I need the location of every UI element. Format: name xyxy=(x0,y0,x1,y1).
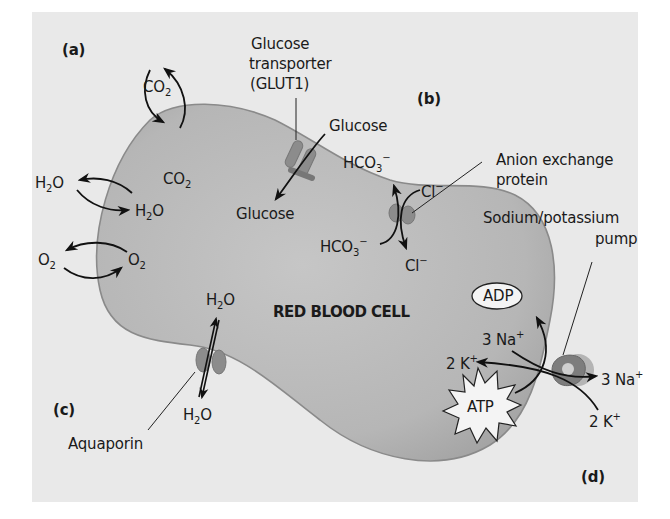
k-inside-label: 2 K+ xyxy=(446,354,478,372)
anion-protein-label-line2: protein xyxy=(496,173,548,188)
anion-protein-label-line1: Anion exchange xyxy=(496,153,613,168)
glucose-outside-label: Glucose xyxy=(329,119,387,134)
aquaporin-icon xyxy=(196,348,226,374)
pump-leader-line xyxy=(563,262,592,355)
glut-label-line2: transporter xyxy=(249,57,332,72)
atp-label: ATP xyxy=(467,400,494,415)
h2o-inside-label: H2O xyxy=(135,204,164,222)
cell-title: RED BLOOD CELL xyxy=(273,305,409,320)
cl-outside-label: Cl− xyxy=(421,182,443,200)
sodium-potassium-pump-icon xyxy=(552,354,594,386)
o2-inside-label: O2 xyxy=(128,253,146,271)
co2-outside-label: CO2 xyxy=(143,80,171,98)
glut-label-line1: Glucose xyxy=(251,37,309,52)
glut-label-line3: (GLUT1) xyxy=(250,77,309,92)
hco3-outside-label: HCO3− xyxy=(343,153,390,174)
pump-label-line1: Sodium/potassium xyxy=(483,211,619,226)
k-outside-label: 2 K+ xyxy=(589,412,621,430)
o2-outside-label: O2 xyxy=(38,253,56,271)
panel-label-a: (a) xyxy=(62,43,85,58)
co2-inside-label: CO2 xyxy=(163,172,191,190)
hco3-inside-label: HCO3− xyxy=(320,237,367,258)
na-inside-label: 3 Na+ xyxy=(482,330,524,348)
h2o-bottom-label: H2O xyxy=(183,408,212,426)
panel-label-b: (b) xyxy=(417,92,441,107)
panel-label-c: (c) xyxy=(53,403,75,418)
na-outside-label: 3 Na+ xyxy=(601,370,643,388)
glucose-inside-label: Glucose xyxy=(236,207,294,222)
h2o-top-label: H2O xyxy=(206,293,235,311)
adp-label: ADP xyxy=(483,289,513,304)
cl-inside-label: Cl− xyxy=(405,256,427,274)
pump-label-line2: pump xyxy=(595,232,637,247)
panel-label-d: (d) xyxy=(581,470,605,485)
aquaporin-label: Aquaporin xyxy=(68,437,143,452)
h2o-outside-label: H2O xyxy=(35,176,64,194)
